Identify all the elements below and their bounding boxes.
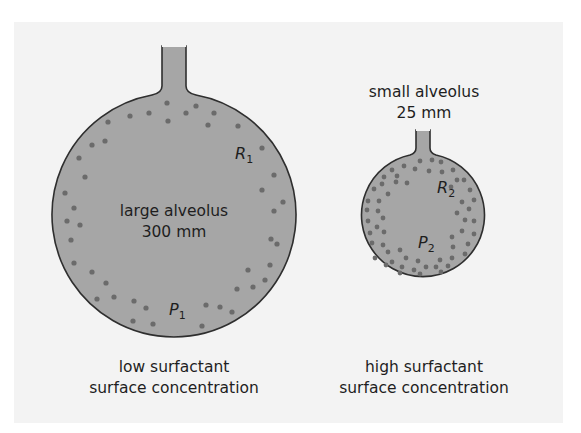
pressure-p2-label: P2: [418, 233, 435, 255]
caption-surface-concentration-1: surface concentration: [89, 378, 259, 399]
caption-low-surfactant: low surfactant: [89, 357, 259, 378]
pressure-p1-label: P1: [169, 300, 186, 322]
radius-r2-label: R2: [437, 178, 455, 200]
radius-r1-label: R1: [235, 144, 253, 166]
large-alveolus-size: 300 mm: [120, 222, 228, 243]
large-alveolus-caption: low surfactant surface concentration: [89, 357, 259, 399]
small-alveolus-caption: high surfactant surface concentration: [339, 357, 509, 399]
large-alveolus-name: large alveolus: [120, 201, 228, 222]
caption-surface-concentration-2: surface concentration: [339, 378, 509, 399]
large-alveolus-label: large alveolus 300 mm: [120, 201, 228, 243]
large-alveolus-shape: [52, 46, 296, 337]
caption-high-surfactant: high surfactant: [339, 357, 509, 378]
small-alveolus-name: small alveolus: [369, 82, 479, 103]
small-alveolus-label: small alveolus 25 mm: [369, 82, 479, 124]
small-alveolus-size: 25 mm: [369, 103, 479, 124]
